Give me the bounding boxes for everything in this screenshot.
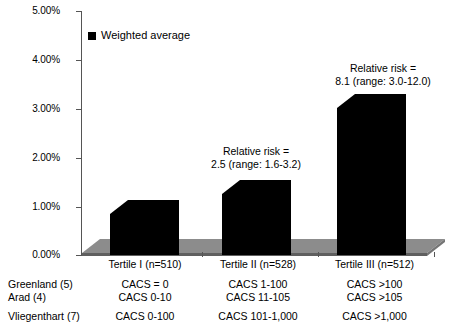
plot-area: 5.00% 4.00% 3.00% 2.00% 1.00% 0.00% bbox=[0, 0, 467, 270]
table-cell-tertile-1: CACS 0-100 bbox=[85, 310, 205, 323]
x-axis-tick-mark bbox=[202, 252, 203, 257]
table-cell-tertile-2: CACS 101-1,000 bbox=[198, 310, 318, 323]
table-cell-tertile-3: CACS >105 bbox=[312, 291, 437, 304]
bar-front-face bbox=[222, 194, 291, 255]
table-cell-tertile-3: CACS >1,000 bbox=[312, 310, 437, 323]
cacs-reference-table: Greenland (5) CACS = 0 CACS 1-100 CACS >… bbox=[0, 272, 467, 330]
annotation-line-1: Relative risk = bbox=[318, 62, 448, 75]
annotation-line-2: 8.1 (range: 3.0-12.0) bbox=[318, 75, 448, 88]
chart-legend: Weighted average bbox=[88, 30, 190, 41]
annotation-line-2: 2.5 (range: 1.6-3.2) bbox=[196, 158, 316, 171]
x-axis-category-label-tertile-2: Tertile II (n=528) bbox=[198, 258, 318, 270]
relative-risk-annotation-tertile-2: Relative risk = 2.5 (range: 1.6-3.2) bbox=[196, 145, 316, 171]
x-axis-tick-mark bbox=[434, 252, 435, 257]
bar-front-face bbox=[337, 108, 406, 255]
table-cell-tertile-1: CACS 0-10 bbox=[85, 291, 205, 304]
bar-front-face bbox=[110, 214, 179, 255]
table-cell-tertile-3: CACS >100 bbox=[312, 278, 437, 291]
bar-top-face bbox=[110, 200, 179, 214]
table-cell-tertile-2: CACS 1-100 bbox=[198, 278, 318, 291]
annotation-line-1: Relative risk = bbox=[196, 145, 316, 158]
bar-top-face bbox=[222, 180, 291, 194]
bar-tertile-1 bbox=[110, 200, 179, 255]
table-cell-tertile-2: CACS 11-105 bbox=[198, 291, 318, 304]
bar-series bbox=[0, 0, 467, 270]
relative-risk-annotation-tertile-3: Relative risk = 8.1 (range: 3.0-12.0) bbox=[318, 62, 448, 88]
legend-swatch-icon bbox=[88, 32, 96, 40]
bar-tertile-3 bbox=[337, 94, 406, 255]
table-row: Greenland (5) CACS = 0 CACS 1-100 CACS >… bbox=[0, 278, 467, 291]
table-row: Vliegenthart (7) CACS 0-100 CACS 101-1,0… bbox=[0, 310, 467, 323]
chart-figure: 5.00% 4.00% 3.00% 2.00% 1.00% 0.00% bbox=[0, 0, 467, 330]
legend-label: Weighted average bbox=[101, 30, 190, 41]
table-row: Arad (4) CACS 0-10 CACS 11-105 CACS >105 bbox=[0, 291, 467, 304]
bar-top-face bbox=[337, 94, 406, 108]
table-cell-tertile-1: CACS = 0 bbox=[85, 278, 205, 291]
x-axis-category-label-tertile-3: Tertile III (n=512) bbox=[312, 258, 437, 270]
bar-tertile-2 bbox=[222, 180, 291, 255]
x-axis-tick-mark bbox=[318, 252, 319, 257]
x-axis-category-label-tertile-1: Tertile I (n=510) bbox=[85, 258, 205, 270]
